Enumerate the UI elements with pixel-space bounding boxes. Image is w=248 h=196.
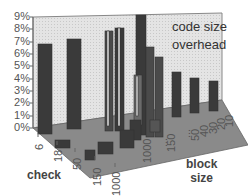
y-tick-3: 3% <box>0 85 30 96</box>
x-tick-18: 18 <box>52 150 64 162</box>
z-tick-10: 10 <box>223 115 235 127</box>
z-axis-label-line2: size <box>186 171 217 185</box>
chart-3d-bar: 9% 8% 7% 6% 5% 4% 3% 2% 1% 0% 6 18 50 15… <box>0 0 248 196</box>
y-tick-9: 9% <box>0 11 30 22</box>
title-line-1: code size <box>172 19 227 34</box>
y-tick-5: 5% <box>0 60 30 71</box>
z-axis-label-line1: block <box>186 157 217 171</box>
title-line-2: overhead <box>172 37 227 52</box>
y-tick-4: 4% <box>0 73 30 84</box>
chart-title: code size overhead <box>172 19 227 52</box>
y-tick-6: 6% <box>0 48 30 59</box>
z-tick-150: 150 <box>165 134 177 152</box>
x-axis-label: check <box>27 168 61 182</box>
y-tick-0: 0% <box>0 122 30 133</box>
x-tick-50: 50 <box>71 158 83 170</box>
y-tick-8: 8% <box>0 23 30 34</box>
x-tick-1000: 1000 <box>110 172 122 196</box>
x-tick-6: 6 <box>33 144 45 150</box>
z-axis-label: block size <box>186 157 217 185</box>
y-tick-2: 2% <box>0 97 30 108</box>
x-tick-150: 150 <box>91 168 103 186</box>
y-tick-7: 7% <box>0 36 30 47</box>
z-tick-1000: 1000 <box>141 139 153 163</box>
y-tick-1: 1% <box>0 110 30 121</box>
